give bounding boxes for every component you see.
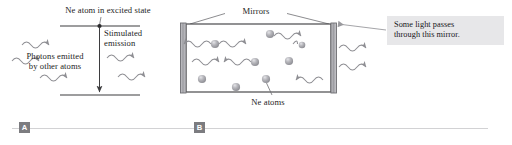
- panel-badge-a: A: [19, 122, 30, 133]
- photon-wave-out-1: [107, 55, 134, 61]
- ne-atom: [251, 58, 259, 66]
- left-mirror: [181, 23, 187, 93]
- escaping-wave-2: [339, 64, 366, 70]
- photon-wave-in-1: [22, 42, 49, 48]
- ne-atom: [299, 42, 306, 49]
- ne-excited-leader-line: [100, 17, 102, 25]
- laser-figure: Ne atom in excited state Photons emitted…: [0, 0, 512, 145]
- right-mirror: [331, 23, 337, 93]
- mirrors-label: Mirrors: [228, 6, 284, 16]
- photon-wave-in-3: [40, 75, 67, 81]
- photon-wave-out-2: [118, 74, 145, 80]
- ne-atoms-label: Ne atoms: [240, 97, 296, 107]
- callout-box: Some light passes through this mirror.: [387, 16, 504, 45]
- escaping-wave-1: [339, 45, 366, 51]
- mirrors-leader-left: [190, 14, 225, 25]
- panel-badge-b: B: [194, 122, 205, 133]
- photons-emitted-label: Photons emitted by other atoms: [2, 51, 108, 72]
- escaping-light-waves: [339, 45, 366, 70]
- ne-atom: [266, 30, 274, 38]
- callout-text: Some light passes through this mirror.: [394, 20, 498, 40]
- excited-atom-dot: [97, 24, 101, 28]
- panel-b-rule: [188, 128, 488, 129]
- laser-cavity-body: [186, 24, 331, 92]
- ne-atom: [198, 75, 206, 83]
- stimulated-emission-label: Stimulated emission: [104, 28, 160, 49]
- ne-atom: [232, 83, 240, 91]
- callout-leader-line: [338, 24, 386, 30]
- mirrors-leader-right: [287, 14, 329, 25]
- ne-atom: [285, 57, 293, 65]
- ne-excited-state-label: Ne atom in excited state: [45, 5, 171, 15]
- outgoing-photon-waves: [107, 55, 145, 80]
- ne-atom: [262, 75, 270, 83]
- panel-b-diagram: [181, 14, 387, 96]
- ne-atom: [211, 40, 219, 48]
